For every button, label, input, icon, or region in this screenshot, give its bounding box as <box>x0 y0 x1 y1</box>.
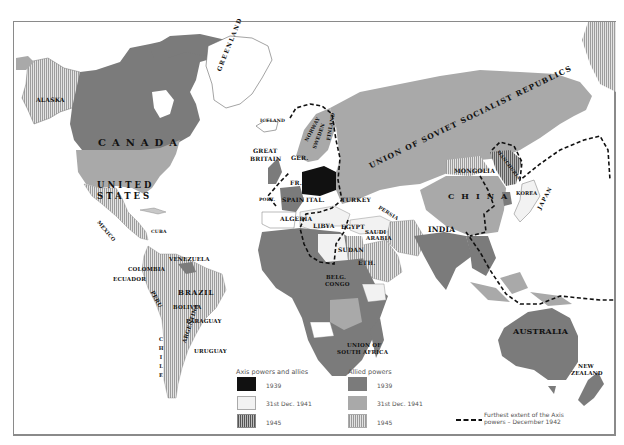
label-brazil: BRAZIL <box>178 289 214 296</box>
label-alaska: ALASKA <box>36 97 65 103</box>
label-cuba: CUBA <box>151 230 167 235</box>
label-great-britain-1: GREAT <box>253 148 277 154</box>
legend-label-axis-1941: 31st Dec. 1941 <box>266 400 312 407</box>
label-libya: LIBYA <box>313 223 335 229</box>
label-uruguay: URUGUAY <box>194 349 227 355</box>
southeast-asia-region <box>466 236 496 276</box>
legend-extent-line1: Furthest extent of the Axis <box>484 411 564 418</box>
legend-swatch-axis-1941 <box>237 396 256 410</box>
legend-label-axis-1945: 1945 <box>266 419 281 426</box>
label-colombia: COLOMBIA <box>128 267 165 273</box>
label-italy: ITAL. <box>306 197 325 203</box>
label-great-britain-2: BRITAIN <box>250 156 281 162</box>
label-portugal: PORT. <box>259 198 275 203</box>
japan-region <box>514 180 540 222</box>
label-belg-congo-1: BELG. <box>326 275 346 281</box>
label-ethiopia: ETH. <box>358 260 376 266</box>
new-zealand-region <box>578 372 604 406</box>
world-map <box>0 0 624 445</box>
label-china: CHINA <box>448 192 514 200</box>
india-region <box>414 232 472 290</box>
legend-extent-line2: powers – December 1942 <box>484 418 561 425</box>
label-iceland: ICELAND <box>260 119 285 124</box>
germany-region <box>302 166 336 196</box>
legend-label-allied-1939: 1939 <box>377 382 392 389</box>
legend-axis-heading: Axis powers and allies <box>236 368 308 376</box>
label-united-states-2: STATES <box>97 192 152 201</box>
label-new-zealand-2: ZEALAND <box>571 371 603 377</box>
label-saudi-2: ARABIA <box>366 236 392 242</box>
australia-region <box>498 308 578 380</box>
legend-swatch-allied-1945 <box>348 414 367 428</box>
legend-swatch-axis-1939 <box>237 377 256 391</box>
label-india: INDIA <box>428 226 455 234</box>
label-new-zealand-1: NEW <box>578 364 594 370</box>
label-chile: CHILE <box>158 336 163 381</box>
label-algeria: ALGERIA <box>280 216 312 222</box>
label-union-south-africa-1: UNION OF <box>347 343 381 349</box>
label-belg-congo-2: CONGO <box>325 282 350 288</box>
label-venezuela: VENEZUELA <box>169 257 210 263</box>
legend-allied-heading: Allied powers <box>348 368 392 376</box>
label-ecuador: ECUADOR <box>113 277 146 283</box>
legend-swatch-allied-1941 <box>348 396 367 410</box>
legend-label-axis-1939: 1939 <box>266 382 281 389</box>
label-turkey: TURKEY <box>341 197 371 203</box>
legend-swatch-axis-1945 <box>237 414 256 428</box>
label-canada: CANADA <box>98 138 183 148</box>
legend-label-allied-1945: 1945 <box>377 419 392 426</box>
label-mongolia: MONGOLIA <box>454 168 495 174</box>
label-spain: SPAIN <box>282 197 304 203</box>
label-united-states-1: UNITED <box>97 181 154 190</box>
label-korea: KOREA <box>516 191 537 196</box>
legend-swatch-allied-1939 <box>348 377 367 391</box>
label-union-south-africa-2: SOUTH AFRICA <box>337 350 388 356</box>
label-france: FR. <box>290 180 302 186</box>
label-germany: GER. <box>291 155 309 161</box>
label-egypt: EGYPT <box>341 224 365 230</box>
greenland-region <box>206 36 272 108</box>
label-sudan: SUDAN <box>338 247 364 253</box>
label-australia: AUSTRALIA <box>513 327 568 335</box>
legend-dashed-line-icon <box>456 418 482 422</box>
legend-label-allied-1941: 31st Dec. 1941 <box>377 400 423 407</box>
